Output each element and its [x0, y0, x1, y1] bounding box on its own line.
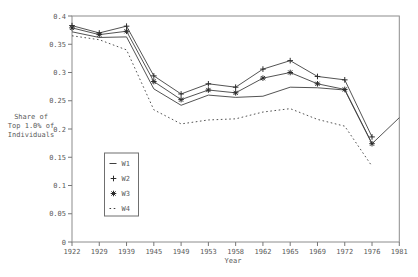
- y-axis-title-line2: Top 1.0% of: [8, 122, 54, 130]
- x-tick-label: 1949: [173, 248, 190, 256]
- x-tick-label: 1962: [254, 248, 271, 256]
- x-tick-label: 1958: [227, 248, 244, 256]
- line-chart: 00.050.10.150.20.250.30.350.4 1922192919…: [0, 0, 418, 277]
- x-tick-label: 1939: [118, 248, 135, 256]
- x-tick-label: 1981: [391, 248, 408, 256]
- y-tick-label: 0.3: [53, 69, 66, 77]
- series-w2-line: [72, 26, 372, 137]
- y-tick-label: 0.05: [49, 210, 66, 218]
- y-axis-title-line3: Individuals: [8, 131, 54, 139]
- x-tick-label: 1922: [64, 248, 81, 256]
- chart-series: [69, 23, 399, 166]
- legend-label-w3: W3: [122, 190, 130, 198]
- chart-screen: 00.050.10.150.20.250.30.350.4 1922192919…: [0, 0, 418, 277]
- x-tick-label: 1929: [91, 248, 108, 256]
- legend-label-w2: W2: [122, 175, 130, 183]
- y-tick-label: 0.35: [49, 41, 66, 49]
- x-tick-label: 1976: [364, 248, 381, 256]
- y-axis-title-line1: Share of: [14, 113, 48, 121]
- legend-label-w4: W4: [122, 205, 130, 213]
- x-tick-label: 1965: [282, 248, 299, 256]
- x-axis-ticks: 1922192919391945194919531958196219651969…: [64, 242, 408, 256]
- x-tick-label: 1945: [145, 248, 162, 256]
- x-tick-label: 1953: [200, 248, 217, 256]
- y-tick-label: 0.2: [53, 126, 66, 134]
- y-tick-label: 0.4: [53, 13, 66, 21]
- series-w4-line: [72, 36, 372, 167]
- y-tick-label: 0.25: [49, 97, 66, 105]
- x-axis-title: Year: [225, 257, 242, 265]
- y-tick-label: 0: [62, 239, 66, 247]
- y-tick-label: 0.1: [53, 182, 66, 190]
- y-tick-label: 0.15: [49, 154, 66, 162]
- legend-label-w1: W1: [122, 160, 130, 168]
- chart-legend: W1W2W3W4: [105, 153, 139, 216]
- x-tick-label: 1972: [336, 248, 353, 256]
- y-axis-title: Share of Top 1.0% of Individuals: [8, 113, 54, 139]
- x-tick-label: 1969: [309, 248, 326, 256]
